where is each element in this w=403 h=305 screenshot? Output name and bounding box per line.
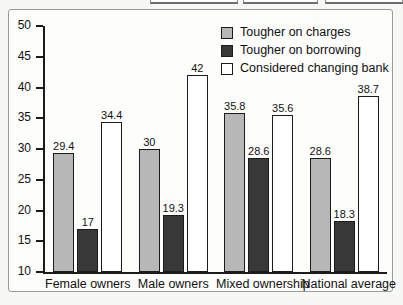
y-tick-40: 40	[36, 87, 43, 89]
bar[interactable]: 42	[187, 75, 208, 272]
bar-value-label: 18.3	[334, 208, 355, 220]
y-tick-10: 10	[36, 271, 43, 273]
bar-value-label: 35.6	[272, 102, 293, 114]
y-tick-label: 45	[18, 48, 31, 64]
y-tick-label: 50	[18, 17, 31, 33]
legend-swatch-icon	[221, 63, 233, 75]
bar-value-label: 28.6	[310, 145, 331, 157]
y-tick-50: 50	[36, 25, 43, 27]
y-tick-mark	[36, 240, 43, 242]
y-tick-label: 25	[18, 171, 31, 187]
y-tick-mark	[36, 87, 43, 89]
chart-legend: Tougher on chargesTougher on borrowingCo…	[221, 24, 389, 78]
y-tick-label: 30	[18, 140, 31, 156]
legend-label: Tougher on borrowing	[240, 43, 361, 58]
bar[interactable]: 35.8	[224, 113, 245, 272]
bar-value-label: 28.6	[248, 145, 269, 157]
toolbar-box-1[interactable]	[150, 0, 238, 4]
legend-label: Considered changing bank	[240, 61, 389, 76]
bar-value-label: 29.4	[53, 140, 74, 152]
y-tick-label: 20	[18, 202, 31, 218]
x-axis-label-mixed-ownership: Mixed ownership	[216, 276, 302, 292]
y-tick-mark	[36, 148, 43, 150]
y-tick-mark	[36, 56, 43, 58]
legend-label: Tougher on charges	[240, 25, 351, 40]
bar[interactable]: 29.4	[53, 153, 74, 272]
y-tick-mark	[36, 271, 43, 273]
bar[interactable]: 18.3	[334, 221, 355, 272]
legend-item[interactable]: Considered changing bank	[221, 60, 389, 77]
bar[interactable]: 34.4	[101, 122, 122, 272]
y-tick-20: 20	[36, 210, 43, 212]
y-tick-mark	[36, 179, 43, 181]
x-axis-label-female-owners: Female owners	[45, 276, 131, 292]
bar-value-label: 19.3	[163, 202, 184, 214]
bar[interactable]: 28.6	[310, 158, 331, 272]
y-tick-label: 35	[18, 109, 31, 125]
y-tick-mark	[36, 210, 43, 212]
bar[interactable]: 38.7	[358, 96, 379, 273]
y-tick-mark	[36, 117, 43, 119]
bar[interactable]: 30	[139, 149, 160, 272]
y-tick-25: 25	[36, 179, 43, 181]
bar-value-label: 38.7	[358, 83, 379, 95]
bar-value-label: 42	[191, 62, 203, 74]
y-tick-15: 15	[36, 240, 43, 242]
bar[interactable]: 28.6	[248, 158, 269, 272]
bar[interactable]: 19.3	[163, 215, 184, 272]
plot-area: 101520253035404550 29.41734.43019.34235.…	[9, 10, 394, 293]
bar[interactable]: 17	[77, 229, 98, 272]
x-axis-label-national-average: National average	[302, 276, 388, 292]
top-cutoff-toolbar-strip	[0, 0, 403, 7]
y-tick-35: 35	[36, 117, 43, 119]
x-axis-label-male-owners: Male owners	[131, 276, 217, 292]
legend-swatch-icon	[221, 45, 233, 57]
toolbar-box-2[interactable]	[243, 0, 318, 4]
y-tick-30: 30	[36, 148, 43, 150]
bar-value-label: 30	[143, 136, 155, 148]
bar-value-label: 35.8	[224, 100, 245, 112]
x-axis-line	[43, 272, 387, 274]
toolbar-box-3[interactable]	[325, 0, 403, 4]
bar-group: 29.41734.4	[45, 26, 131, 272]
y-tick-label: 15	[18, 232, 31, 248]
legend-item[interactable]: Tougher on borrowing	[221, 42, 389, 59]
bar[interactable]: 35.6	[272, 115, 293, 272]
chart-figure-frame: 101520253035404550 29.41734.43019.34235.…	[8, 9, 393, 292]
y-tick-mark	[36, 25, 43, 27]
legend-swatch-icon	[221, 27, 233, 39]
y-tick-45: 45	[36, 56, 43, 58]
y-tick-label: 10	[18, 263, 31, 279]
bar-group: 3019.342	[131, 26, 217, 272]
y-tick-label: 40	[18, 79, 31, 95]
x-axis-category-labels: Female ownersMale ownersMixed ownershipN…	[45, 276, 387, 294]
legend-item[interactable]: Tougher on charges	[221, 24, 389, 41]
bar-value-label: 34.4	[101, 109, 122, 121]
bar-value-label: 17	[82, 216, 94, 228]
